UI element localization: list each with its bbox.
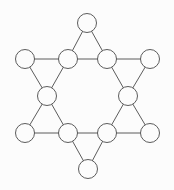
hexagram-graph: [0, 0, 174, 190]
graph-edge: [72, 31, 82, 50]
hexagram-diagram-canvas: [0, 0, 174, 190]
graph-node-right-lower-tip: [141, 124, 160, 143]
graph-edge: [52, 67, 64, 87]
graph-node-inner-top-left: [59, 50, 78, 69]
graph-edge: [92, 31, 103, 50]
graph-edge: [112, 67, 124, 87]
graph-edge: [133, 104, 145, 125]
graph-node-inner-left: [38, 87, 57, 106]
node-layer: [16, 14, 160, 179]
graph-edge: [30, 67, 42, 88]
graph-node-right-upper-tip: [141, 50, 160, 69]
graph-node-left-lower-tip: [16, 124, 35, 143]
graph-node-left-upper-tip: [16, 50, 35, 69]
graph-edge: [133, 67, 145, 88]
graph-edge: [52, 104, 64, 124]
graph-edge: [73, 141, 84, 160]
graph-edge: [112, 104, 124, 124]
graph-edge: [30, 104, 42, 125]
graph-node-bottom-apex: [79, 160, 98, 179]
graph-node-inner-right: [119, 87, 138, 106]
graph-node-inner-bottom-right: [98, 124, 117, 143]
graph-node-top-apex: [78, 14, 97, 33]
graph-node-inner-top-right: [98, 50, 117, 69]
graph-node-inner-bottom-left: [59, 124, 78, 143]
graph-edge: [92, 141, 102, 160]
